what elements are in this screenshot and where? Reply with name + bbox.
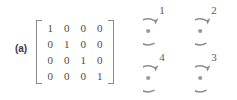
circular-arrow-icon [143, 62, 181, 96]
matrix: 1 0 0 0 0 1 0 0 0 0 1 0 0 0 0 1 [36, 20, 114, 84]
node-3: 3 [192, 51, 236, 97]
matrix-cell: 1 [59, 36, 76, 52]
matrix-cell: 1 [42, 20, 59, 36]
matrix-bracket-right [108, 20, 114, 84]
node-4: 4 [140, 51, 184, 97]
matrix-cell: 0 [92, 20, 109, 36]
matrix-cell: 0 [59, 68, 76, 84]
circular-arrow-icon [195, 15, 233, 49]
matrix-cell: 0 [42, 36, 59, 52]
matrix-cell: 0 [75, 68, 92, 84]
matrix-cell: 0 [59, 20, 76, 36]
node-1: 1 [140, 4, 184, 50]
matrix-cell: 1 [92, 68, 109, 84]
node-2: 2 [192, 4, 236, 50]
panel-label: (a) [8, 43, 34, 55]
matrix-cell: 0 [42, 52, 59, 68]
matrix-cell: 1 [75, 52, 92, 68]
figure-panel: (a) 1 0 0 0 0 1 0 0 0 0 1 0 0 0 0 1 1 [0, 0, 237, 100]
matrix-grid: 1 0 0 0 0 1 0 0 0 0 1 0 0 0 0 1 [42, 20, 108, 84]
matrix-cell: 0 [92, 52, 109, 68]
matrix-cell: 0 [75, 36, 92, 52]
matrix-cell: 0 [75, 20, 92, 36]
circular-arrow-icon [195, 62, 233, 96]
matrix-cell: 0 [59, 52, 76, 68]
matrix-cell: 0 [42, 68, 59, 84]
circular-arrow-icon [143, 15, 181, 49]
matrix-cell: 0 [92, 36, 109, 52]
